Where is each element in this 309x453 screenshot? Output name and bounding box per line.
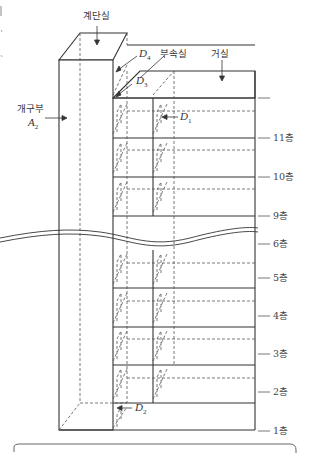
door-d3-symbol: D (136, 74, 144, 86)
door-d3-label: D3 (136, 75, 147, 89)
door-d2-label: D2 (135, 402, 146, 416)
floor-label-10: 10층 (273, 172, 294, 182)
door-d4-label: D4 (139, 48, 150, 62)
opening-subscript: 2 (35, 123, 39, 131)
opening-label: 개구부 (17, 104, 44, 114)
floor-label-1: 1층 (273, 426, 288, 436)
living-room-label: 거실 (211, 49, 229, 59)
door-d4-symbol: D (139, 47, 147, 59)
floor-label-6: 6층 (273, 239, 288, 249)
opening-symbol: A (28, 116, 35, 128)
building-roof-slab (113, 71, 255, 98)
floor-label-3: 3층 (273, 349, 288, 359)
stair-room-label: 계단실 (83, 11, 110, 21)
annex-room-label: 부속실 (160, 49, 187, 59)
building-section-drawing (0, 0, 309, 453)
door-d2-subscript: 2 (143, 408, 147, 416)
door-d2-symbol: D (135, 401, 143, 413)
door-d1-label: D1 (180, 111, 191, 125)
stair-pressurization-diagram: 계단실 D4 부속실 거실 D3 D1 개구부 A2 D2 11층 10층 9층… (0, 0, 309, 453)
floor-label-9: 9층 (273, 211, 288, 221)
floor-label-11: 11층 (273, 133, 294, 143)
door-d1-symbol: D (180, 110, 188, 122)
door-d3-subscript: 3 (144, 81, 148, 89)
floor-label-4: 4층 (273, 311, 288, 321)
opening-symbol-label: A2 (28, 117, 38, 131)
floor-label-5: 5층 (273, 273, 288, 283)
stair-tower-front (59, 60, 113, 430)
door-d1-subscript: 1 (188, 117, 192, 125)
stair-tower-roof (59, 33, 127, 60)
floor-label-2: 2층 (273, 387, 288, 397)
door-d4-subscript: 4 (147, 54, 151, 62)
